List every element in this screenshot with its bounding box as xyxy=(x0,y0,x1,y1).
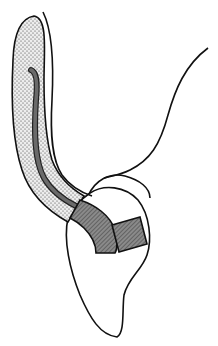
stippled-tissue-band xyxy=(12,16,84,222)
right-contour-line xyxy=(104,48,208,178)
tooth-diagram xyxy=(0,0,218,346)
diagram-canvas xyxy=(0,0,218,346)
